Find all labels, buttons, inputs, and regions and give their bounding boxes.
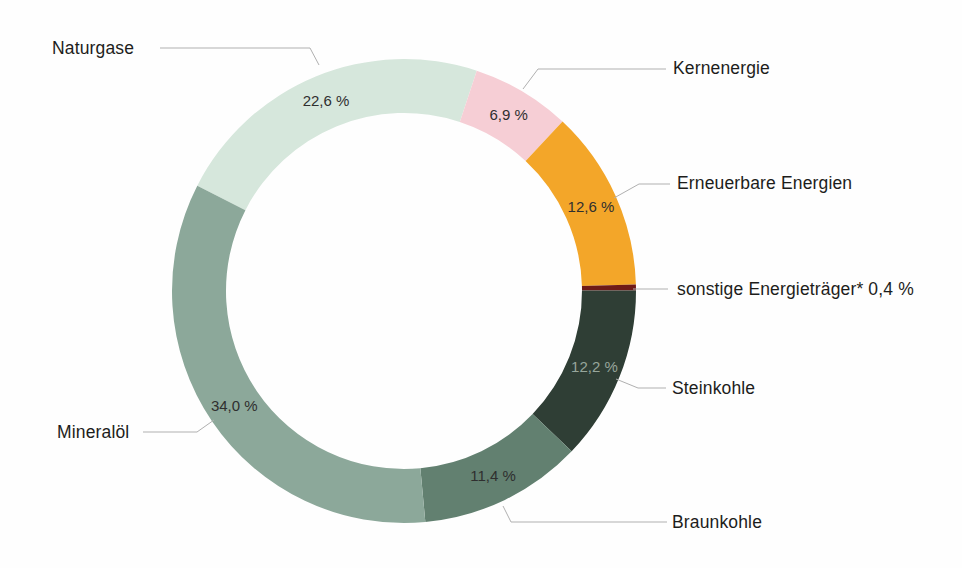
callout-kernenergie: Kernenergie <box>673 58 770 78</box>
leader-line-kernenergie <box>523 69 666 89</box>
callout-sonstige-energietraeger: sonstige Energieträger* 0,4 % <box>677 279 914 299</box>
callout-braunkohle: Braunkohle <box>672 512 762 532</box>
value-label-braunkohle: 11,4 % <box>470 467 516 484</box>
callout-steinkohle: Steinkohle <box>672 378 755 398</box>
leader-line-steinkohle <box>616 379 666 388</box>
segment-mineral-l <box>172 186 425 523</box>
value-label-erneuerbare-energien: 12,6 % <box>568 198 615 215</box>
segment-naturgase <box>197 59 476 210</box>
value-label-steinkohle: 12,2 % <box>571 358 618 375</box>
value-label-kernenergie: 6,9 % <box>489 106 527 123</box>
leader-line-naturgase <box>160 48 319 65</box>
callout-erneuerbare-energien: Erneuerbare Energien <box>677 173 852 193</box>
leader-line-erneuerbare-energien <box>614 184 670 198</box>
value-label-mineral-l: 34,0 % <box>211 397 258 414</box>
callout-naturgase: Naturgase <box>52 38 134 58</box>
leader-line-mineral-l <box>143 420 214 432</box>
donut-chart-figure: 22,6 %6,9 %12,6 %12,2 %11,4 %34,0 % Natu… <box>0 0 962 568</box>
callout-mineraloel: Mineralöl <box>57 422 129 442</box>
value-label-naturgase: 22,6 % <box>303 92 350 109</box>
leader-line-braunkohle <box>503 506 667 522</box>
